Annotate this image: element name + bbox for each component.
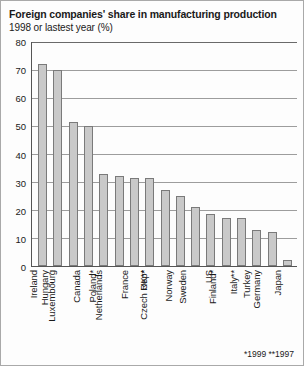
axes [31, 42, 297, 267]
x-label-slot: Sweden [186, 269, 201, 341]
bar-series [32, 42, 297, 266]
bar [206, 214, 215, 266]
chart-figure: Foreign companies' share in manufacturin… [0, 0, 304, 366]
bar [84, 126, 93, 266]
bar [99, 174, 108, 266]
bar [191, 207, 200, 266]
bar-slot [127, 42, 142, 266]
bar-slot [234, 42, 249, 266]
y-tick-label: 70 [15, 65, 26, 76]
bar-slot [96, 42, 111, 266]
y-tick-label: 50 [15, 121, 26, 132]
chart-footnote: *1999 **1997 [244, 349, 294, 359]
x-tick-label: Ireland [27, 270, 38, 298]
bar [283, 260, 292, 266]
bar-slot [203, 42, 218, 266]
bar [161, 190, 170, 266]
bar-slot [66, 42, 81, 266]
bar [237, 218, 246, 266]
bar [53, 70, 62, 266]
bar-slot [264, 42, 279, 266]
chart-title: Foreign companies' share in manufacturin… [9, 8, 295, 21]
bar-slot [81, 42, 96, 266]
x-tick-label: Luxembourg [46, 270, 57, 322]
x-tick-label: Norway [163, 270, 174, 302]
y-tick-label: 30 [15, 177, 26, 188]
bar-slot [219, 42, 234, 266]
bar-slot [157, 42, 172, 266]
bar-slot [173, 42, 188, 266]
bar-slot [280, 42, 295, 266]
bar [130, 178, 139, 266]
bar-slot [50, 42, 65, 266]
y-tick-label: 10 [15, 233, 26, 244]
bar-slot [111, 42, 126, 266]
x-tick-label: Czech Rep* [139, 270, 150, 320]
x-tick-label: Canada [71, 270, 82, 303]
x-tick-label: Italy** [228, 270, 239, 294]
bar [69, 122, 78, 266]
bar [176, 196, 185, 266]
y-axis-tick-labels: 01020304050607080 [9, 42, 29, 267]
x-tick-label: Sweden [177, 270, 188, 304]
bar [115, 176, 124, 266]
x-axis-category-labels: IrelandHungaryLuxembourgCanadaPoland*Net… [31, 269, 295, 341]
bar-slot [35, 42, 50, 266]
x-tick-label: Germany [251, 270, 262, 308]
bar [38, 64, 47, 266]
bar [268, 232, 277, 266]
x-tick-label: Japan [273, 270, 284, 295]
x-tick-label: Netherlands [93, 270, 104, 320]
y-tick-label: 80 [15, 37, 26, 48]
y-tick-label: 60 [15, 93, 26, 104]
x-tick-label: France [119, 270, 130, 299]
bar [222, 218, 231, 266]
bar [145, 178, 154, 266]
bar-slot [249, 42, 264, 266]
x-tick-label: Finland* [207, 270, 218, 304]
y-tick-label: 20 [15, 205, 26, 216]
x-label-slot: Japan [278, 269, 293, 341]
bar [252, 230, 261, 266]
chart-subtitle: 1998 or lastest year (%) [9, 21, 295, 34]
bar-slot [188, 42, 203, 266]
bar-slot [142, 42, 157, 266]
y-tick-label: 0 [21, 262, 26, 273]
plot-area: 01020304050607080 [9, 42, 297, 267]
y-tick-label: 40 [15, 149, 26, 160]
